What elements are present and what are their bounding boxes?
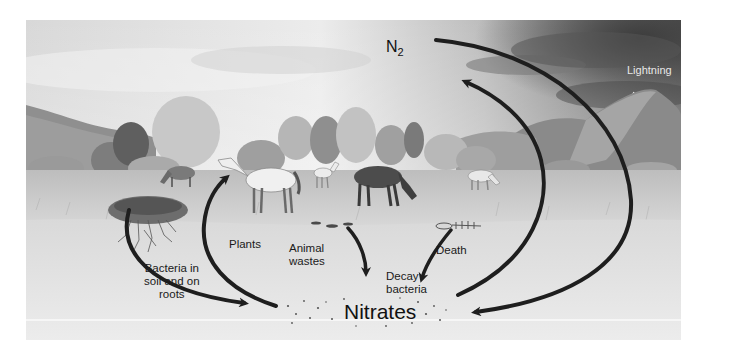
nitrogen-cycle-illustration: N2 Lightning Plants Animal wastes Decay … <box>26 20 681 340</box>
label-plants: Plants <box>229 238 261 251</box>
label-animal-wastes: Animal wastes <box>289 242 325 268</box>
landscape-scene <box>26 20 681 340</box>
label-decay-bacteria: Decay bacteria <box>386 270 427 296</box>
label-nitrates: Nitrates <box>344 301 416 323</box>
label-n2: N2 <box>386 38 404 61</box>
label-death: Death <box>436 244 467 257</box>
label-lightning: Lightning <box>627 64 672 77</box>
label-bacteria-soil-roots: Bacteria in soil and on roots <box>144 262 200 301</box>
